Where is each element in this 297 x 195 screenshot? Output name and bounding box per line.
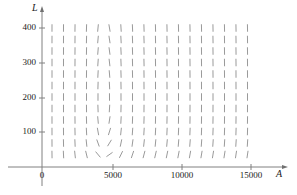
y-tick-label: 300	[8, 57, 36, 67]
slope-field-dashes	[52, 24, 248, 158]
x-tick-label: 15000	[229, 170, 273, 180]
y-tick-label: 200	[8, 92, 36, 102]
origin-tick-label: 0	[30, 170, 54, 180]
axis-tick-marks	[39, 28, 251, 170]
plot-canvas	[0, 0, 297, 195]
axis-lines	[8, 12, 282, 186]
y-tick-label: 100	[8, 126, 36, 136]
x-axis-label: A	[276, 168, 282, 179]
y-axis-label: L	[32, 2, 38, 13]
x-tick-label: 10000	[160, 170, 204, 180]
x-tick-label: 5000	[91, 170, 135, 180]
y-tick-label: 400	[8, 22, 36, 32]
direction-field-figure: L A 0 100200300400 50001000015000	[0, 0, 297, 195]
